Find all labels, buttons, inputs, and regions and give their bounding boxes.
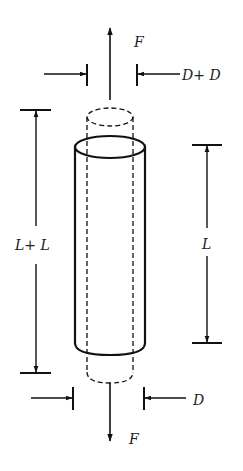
bottom-force-label: F — [128, 431, 140, 447]
left-length-label: L+ L — [14, 237, 50, 253]
original-cylinder — [75, 136, 145, 355]
bottom-diameter-label: D — [192, 392, 204, 408]
top-diameter-dimension — [44, 64, 180, 86]
deformed-cylinder-outline — [87, 108, 133, 383]
cylinder-deformation-diagram: F D+ D F D L+ L — [0, 0, 243, 471]
bottom-diameter-dimension — [31, 387, 186, 410]
right-length-label: L — [201, 236, 211, 252]
top-force-label: F — [133, 34, 145, 50]
top-diameter-label: D+ D — [181, 67, 221, 83]
